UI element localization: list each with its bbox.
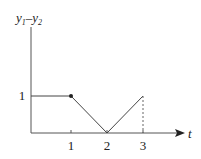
data-point-marker (69, 94, 73, 98)
series-line (31, 96, 143, 133)
x-tick-label-1: 1 (68, 138, 75, 153)
y-tick-label-1: 1 (19, 88, 26, 103)
x-axis-label: t (188, 126, 192, 141)
y-axis-label: y1–y2 (14, 10, 42, 27)
x-tick-label-3: 3 (140, 138, 147, 153)
chart: 1 2 3 1 t y1–y2 (0, 0, 201, 159)
x-tick-label-2: 2 (104, 138, 111, 153)
